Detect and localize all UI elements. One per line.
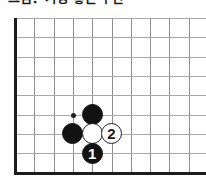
grid-line-vertical-3 — [73, 18, 74, 174]
grid-line-vertical-7 — [150, 18, 151, 174]
diagram-caption: 그림．가장 좋은 수단 — [8, 0, 124, 5]
grid-line-vertical-6 — [131, 18, 132, 174]
grid-line-horizontal-5 — [15, 115, 206, 116]
white-stone-move-2: 2 — [101, 123, 122, 144]
black-stone-move-1: 1 — [82, 143, 103, 164]
go-board: 12 — [0, 6, 206, 190]
grid-line-vertical-5 — [112, 18, 113, 174]
grid-line-vertical-9 — [189, 18, 190, 174]
star-point-3-5 — [71, 113, 76, 118]
grid-line-vertical-8 — [169, 18, 170, 174]
grid-line-horizontal-4 — [15, 95, 206, 96]
grid-line-horizontal-7 — [15, 153, 206, 154]
grid-line-vertical-2 — [54, 18, 55, 174]
black-stone-left — [62, 123, 83, 144]
black-stone-upper — [82, 104, 103, 125]
stone-move-number: 2 — [107, 126, 115, 141]
grid-line-horizontal-2 — [15, 57, 206, 58]
grid-line-horizontal-0 — [15, 18, 206, 19]
go-diagram-screenshot: 그림．가장 좋은 수단 12 — [0, 0, 206, 190]
grid-line-horizontal-1 — [15, 37, 206, 38]
board-bottom-edge — [14, 172, 206, 175]
stone-move-number: 1 — [88, 146, 96, 161]
grid-line-vertical-1 — [34, 18, 35, 174]
grid-line-horizontal-3 — [15, 76, 206, 77]
diagram-caption-strip: 그림．가장 좋은 수단 — [0, 0, 206, 7]
board-left-edge — [14, 18, 17, 175]
white-stone-center — [82, 123, 103, 144]
